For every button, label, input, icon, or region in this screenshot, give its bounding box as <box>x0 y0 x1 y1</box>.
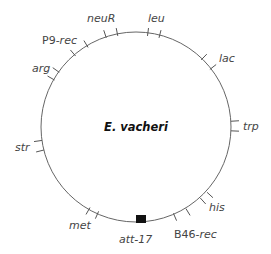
tick-arg-0 <box>53 68 60 73</box>
label-arg: arg <box>32 62 50 75</box>
tick-his-0 <box>200 198 205 204</box>
label-neuR: neuR <box>87 12 115 25</box>
tick-leu-1 <box>159 30 161 38</box>
tick-his-1 <box>207 192 213 197</box>
tick-arg-1 <box>48 76 55 80</box>
tick-P9-rec-0 <box>70 50 75 56</box>
tick-B46-rec-0 <box>173 213 176 220</box>
label-P9-rec: P9-rec <box>42 34 77 47</box>
tick-B46-rec-1 <box>186 209 190 216</box>
att-site-label: att-17 <box>119 233 152 246</box>
tick-neuR-1 <box>116 28 118 36</box>
tick-met-1 <box>95 211 98 218</box>
label-trp: trp <box>243 120 259 133</box>
tick-str-1 <box>36 150 44 152</box>
tick-neuR-0 <box>104 30 107 38</box>
label-B46-rec: B46-rec <box>174 228 217 241</box>
label-leu: leu <box>148 12 165 25</box>
label-met: met <box>69 219 91 232</box>
genetic-map: neuRleulactrphisB46-recmetstrargP9-rec a… <box>0 0 271 254</box>
label-lac: lac <box>219 52 235 65</box>
tick-lac-1 <box>210 65 216 70</box>
tick-leu-0 <box>147 28 148 36</box>
att-site-marker <box>136 215 146 223</box>
label-str: str <box>15 141 31 154</box>
organism-title: E. vacheri <box>104 120 169 134</box>
label-his: his <box>209 201 225 214</box>
tick-str-0 <box>34 140 42 141</box>
tick-lac-0 <box>201 54 207 60</box>
